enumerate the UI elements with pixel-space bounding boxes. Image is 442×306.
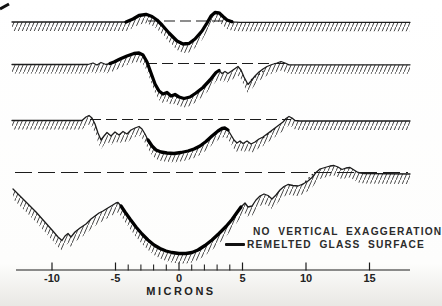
x-axis-tick-label: 15 bbox=[363, 272, 375, 284]
x-axis-tick-label: 0 bbox=[176, 272, 182, 284]
x-axis-title: MICRONS bbox=[146, 285, 215, 297]
x-axis-tick-label: -10 bbox=[44, 272, 60, 284]
no-vertical-exaggeration-label: NO VERTICAL EXAGGERATION bbox=[253, 226, 442, 237]
profile-4-deep-remelted-surface-trace bbox=[121, 206, 241, 254]
x-axis-tick-label: -5 bbox=[111, 272, 121, 284]
remelted-line-sample bbox=[225, 243, 245, 246]
x-axis-tick-label: 5 bbox=[239, 272, 245, 284]
remelted-glass-surface-label: REMELTED GLASS SURFACE bbox=[247, 239, 425, 250]
profile-2-surface-trace bbox=[12, 53, 410, 99]
x-axis-tick-label: 10 bbox=[300, 272, 312, 284]
scan-artifact-mark bbox=[0, 4, 9, 9]
